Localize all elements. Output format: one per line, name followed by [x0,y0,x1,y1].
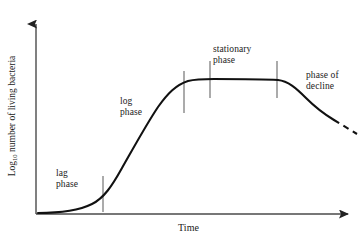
x-axis-label: Time [178,222,199,233]
y-axis-label-suffix: number of living bacteria [7,56,17,155]
growth-curve-figure: Log10 number of living bacteria Time lag… [0,0,364,246]
y-axis-label: Log10 number of living bacteria [4,28,20,204]
y-axis-label-text: Log10 number of living bacteria [7,56,17,177]
growth-curve-path [38,79,334,213]
annotation-stationary-phase: stationary phase [213,44,251,66]
annotation-log-phase: log phase [120,96,142,118]
annotation-phase-of-decline: phase of decline [306,70,339,92]
growth-curve-plot [0,0,364,246]
y-axis-label-prefix: Log [7,161,17,176]
annotation-lag-phase: lag phase [56,168,78,190]
decline-dashed-path [334,120,357,134]
y-axis-label-subscript: 10 [11,154,18,161]
